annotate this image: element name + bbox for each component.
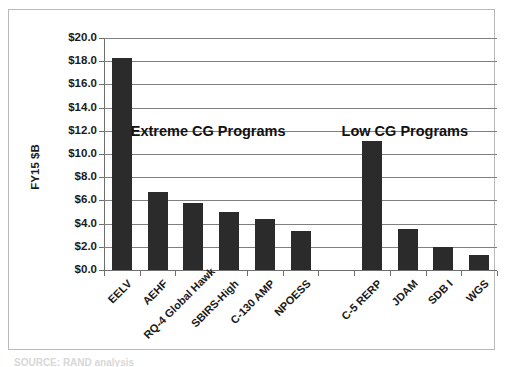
gridline <box>104 84 497 85</box>
y-axis-tick-label: $2.0 <box>75 241 97 253</box>
plot-area <box>104 38 497 270</box>
bar <box>219 212 239 270</box>
x-axis-tick <box>426 271 427 276</box>
x-axis-tick <box>283 271 284 276</box>
x-axis-tick <box>247 271 248 276</box>
y-axis-tick-label: $8.0 <box>75 171 97 183</box>
gridline <box>104 154 497 155</box>
y-axis-tick-labels: $20.0$18.0$16.0$14.0$12.0$10.0$8.0$6.0$4… <box>9 10 97 367</box>
y-axis-tick-label: $6.0 <box>75 194 97 206</box>
x-axis-tick <box>354 271 355 276</box>
x-axis-line <box>104 270 497 271</box>
y-axis-tick-label: $18.0 <box>68 55 97 67</box>
bar <box>148 192 168 270</box>
y-axis-tick-label: $10.0 <box>68 148 97 160</box>
annotation-low-cg-programs: Low CG Programs <box>342 124 469 139</box>
chart-figure: FY15 $B $20.0$18.0$16.0$14.0$12.0$10.0$8… <box>0 0 506 367</box>
y-axis-tick-label: $14.0 <box>68 102 97 114</box>
x-axis-tick <box>104 271 105 276</box>
x-axis-tick <box>390 271 391 276</box>
y-axis-tick-label: $12.0 <box>68 125 97 137</box>
bar <box>183 203 203 270</box>
x-axis-tick <box>175 271 176 276</box>
y-axis-tick-label: $4.0 <box>75 218 97 230</box>
gridline <box>104 177 497 178</box>
x-axis-tick <box>318 271 319 276</box>
annotation-extreme-cg-programs: Extreme CG Programs <box>131 124 286 139</box>
bottom-caption: SOURCE: RAND analysis <box>14 357 134 367</box>
bar <box>112 58 132 270</box>
gridline <box>104 38 497 39</box>
bar <box>362 141 382 270</box>
y-axis-tick-label: $0.0 <box>75 264 97 276</box>
x-axis-tick <box>497 271 498 276</box>
gridline <box>104 61 497 62</box>
x-axis-tick <box>461 271 462 276</box>
bar <box>398 229 418 270</box>
bar <box>255 219 275 270</box>
y-axis-tick-label: $16.0 <box>68 78 97 90</box>
x-axis-tick <box>140 271 141 276</box>
y-axis-tick-label: $20.0 <box>68 32 97 44</box>
bar <box>433 247 453 270</box>
bar <box>469 255 489 270</box>
gridline <box>104 108 497 109</box>
chart-frame: FY15 $B $20.0$18.0$16.0$14.0$12.0$10.0$8… <box>8 9 495 350</box>
x-axis-tick-label: C-5 RERP <box>321 278 384 341</box>
bar <box>291 231 311 270</box>
